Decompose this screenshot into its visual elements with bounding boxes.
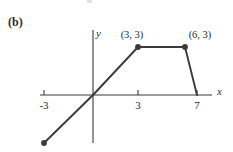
point-label-6-3: (6, 3) (189, 29, 212, 41)
graph-canvas (0, 0, 233, 152)
x-tick-label-3: 3 (135, 99, 141, 111)
data-point-3-3 (135, 44, 141, 50)
x-tick-label-7: 7 (194, 99, 200, 111)
figure-panel-b: (b) y x -3 3 7 (3, 3) (6, 3) (0, 0, 233, 152)
point-label-3-3: (3, 3) (121, 29, 144, 41)
data-point-minus3-minus3 (41, 140, 47, 146)
x-axis-label: x (217, 86, 222, 97)
y-axis-label: y (96, 28, 101, 39)
data-point-6-3 (182, 44, 188, 50)
x-tick-label-minus-3: -3 (39, 99, 48, 111)
